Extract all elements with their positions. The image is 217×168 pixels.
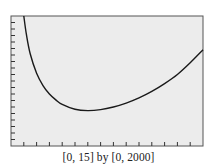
graph-plot [0,0,217,150]
window-caption: [0, 15] by [0, 2000] [0,151,217,163]
